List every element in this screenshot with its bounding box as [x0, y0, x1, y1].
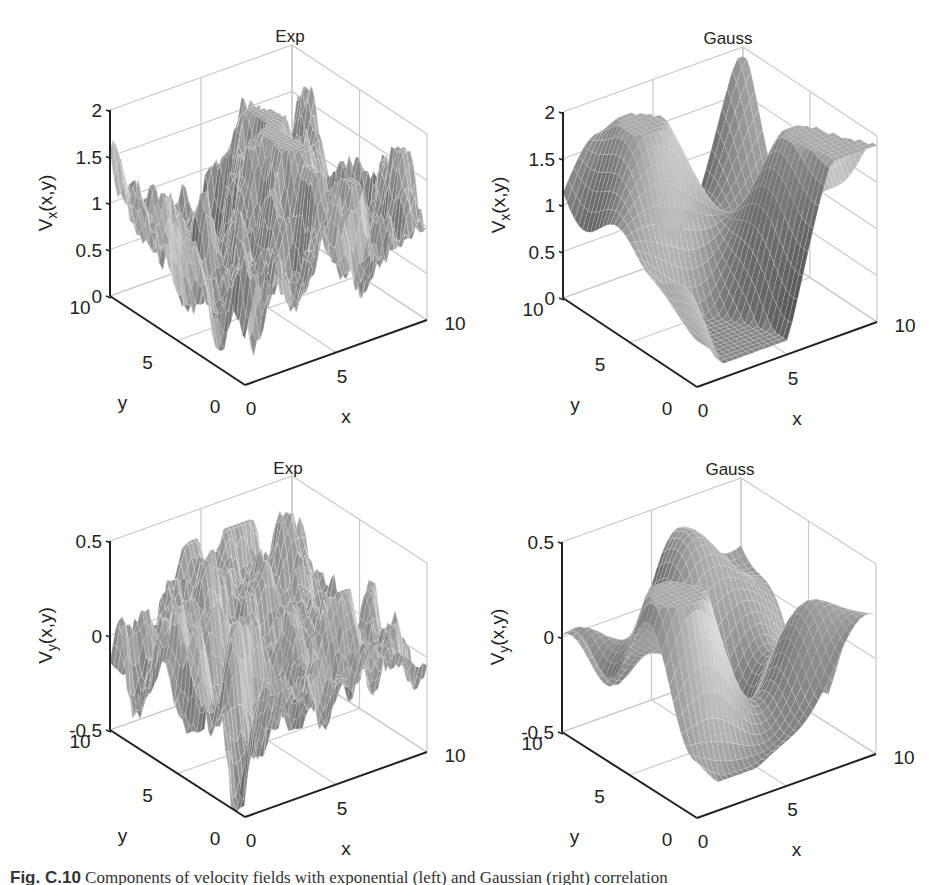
z-tick-label: 0	[543, 627, 554, 648]
caption-label: Fig. C.10	[10, 868, 81, 885]
y-axis-label: y	[118, 825, 128, 846]
y-tick-label: 10	[69, 731, 90, 752]
z-axis-label: Vx(x,y)	[488, 177, 513, 234]
subplot-3: -0.500.505100510yxVy(x,y)Exp	[35, 459, 466, 859]
x-axis-label: x	[341, 838, 351, 859]
z-axis-label: Vy(x,y)	[35, 607, 60, 664]
x-tick-label: 10	[893, 747, 914, 768]
subplot-4: -0.500.505100510yxVy(x,y)Gauss	[487, 460, 915, 860]
y-axis-label: y	[570, 394, 580, 415]
z-tick-label: 0	[91, 626, 102, 647]
x-tick-label: 5	[337, 798, 348, 819]
y-axis-label: y	[570, 826, 580, 847]
z-tick-label: 1.5	[76, 147, 102, 168]
x-tick-label: 0	[698, 831, 709, 852]
y-axis-label: y	[118, 392, 128, 413]
surface-mesh	[110, 512, 427, 812]
surface-plots-figure: 00.511.5205100510yxVx(x,y)Exp00.511.5205…	[0, 0, 936, 885]
y-tick-label: 0	[210, 396, 221, 417]
caption-text: Components of velocity fields with expon…	[85, 868, 668, 885]
z-tick-label: 2	[91, 100, 102, 121]
x-tick-label: 0	[698, 400, 709, 421]
y-tick-label: 5	[595, 354, 606, 375]
z-axis-label: Vx(x,y)	[35, 175, 60, 232]
x-tick-label: 5	[787, 799, 798, 820]
z-tick-label: 0.5	[529, 242, 555, 263]
z-tick-label: 0	[91, 286, 102, 307]
x-tick-label: 10	[444, 313, 465, 334]
y-tick-label: 5	[594, 786, 605, 807]
x-tick-label: 0	[246, 830, 257, 851]
x-tick-label: 5	[337, 366, 348, 387]
x-tick-label: 10	[444, 745, 465, 766]
z-axis-label: Vy(x,y)	[487, 609, 512, 666]
x-tick-label: 0	[246, 398, 257, 419]
subplot-title: Gauss	[703, 29, 752, 48]
subplot-title: Exp	[273, 459, 302, 478]
surface-mesh	[110, 86, 427, 356]
z-tick-label: 1	[91, 193, 102, 214]
y-tick-label: 5	[142, 352, 153, 373]
y-axis	[562, 732, 697, 818]
subplot-1: 00.511.5205100510yxVx(x,y)Exp	[35, 27, 466, 427]
y-tick-label: 0	[662, 829, 673, 850]
figure: 00.511.5205100510yxVx(x,y)Exp00.511.5205…	[0, 0, 936, 885]
x-tick-label: 10	[894, 315, 915, 336]
y-tick-label: 0	[662, 398, 673, 419]
subplot-title: Gauss	[705, 460, 754, 479]
y-tick-label: 0	[210, 828, 221, 849]
z-tick-label: 1.5	[529, 149, 555, 170]
x-tick-label: 5	[788, 368, 799, 389]
z-tick-label: 0.5	[76, 531, 102, 552]
surface-mesh	[562, 526, 876, 782]
z-tick-label: 1	[544, 195, 555, 216]
z-tick-label: 0.5	[528, 532, 554, 553]
z-tick-label: 0	[544, 288, 555, 309]
subplot-title: Exp	[275, 27, 304, 46]
figure-caption: Fig. C.10 Components of velocity fields …	[10, 868, 668, 885]
x-axis-label: x	[341, 406, 351, 427]
y-tick-label: 10	[522, 299, 543, 320]
y-tick-label: 10	[521, 733, 542, 754]
z-tick-label: 2	[544, 102, 555, 123]
x-axis-label: x	[792, 839, 802, 860]
z-tick-label: 0.5	[76, 240, 102, 261]
x-axis-label: x	[792, 408, 802, 429]
subplot-2: 00.511.5205100510yxVx(x,y)Gauss	[488, 29, 916, 429]
y-tick-label: 5	[142, 785, 153, 806]
y-tick-label: 10	[69, 297, 90, 318]
